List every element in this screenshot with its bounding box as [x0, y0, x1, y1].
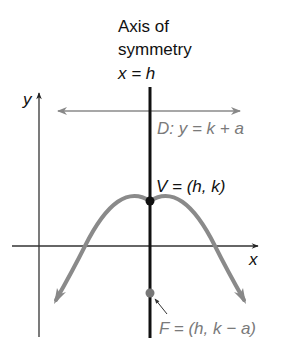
vertex-label: V = (h, k) — [156, 177, 225, 196]
vertex-point — [146, 197, 155, 206]
focus-label: F = (h, k − a) — [159, 319, 256, 338]
focus-point — [146, 289, 155, 298]
y-axis-label: y — [22, 90, 33, 109]
x-axis-label: x — [248, 250, 258, 269]
axis-equation-label: x = h — [117, 64, 155, 83]
focus-pointer-arrow — [155, 299, 167, 314]
directrix-label: D: y = k + a — [157, 119, 244, 138]
axis-title-line-1: Axis of — [118, 17, 169, 36]
axis-title-line-2: symmetry — [118, 40, 192, 59]
parabola-diagram: Axis of symmetry x = h y x D: y = k + a … — [0, 0, 281, 364]
